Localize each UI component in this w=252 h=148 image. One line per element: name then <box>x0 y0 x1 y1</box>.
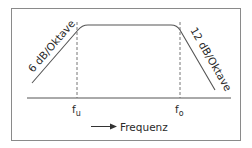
axis-label: Frequenz <box>120 121 168 133</box>
lower-cutoff-label: fu <box>72 103 81 118</box>
right-arrow-icon <box>91 124 117 130</box>
band-pass-diagram: 6 dB/Oktave 12 dB/Oktave fu fo Frequenz <box>0 0 252 148</box>
upper-cutoff-label: fo <box>175 103 184 118</box>
left-slope-label: 6 dB/Oktave <box>25 17 77 74</box>
